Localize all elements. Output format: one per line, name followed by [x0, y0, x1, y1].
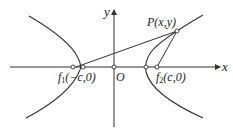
- focus-left-label: f1(−c,0): [58, 70, 96, 85]
- focus-left-marker: [71, 65, 75, 69]
- hyperbola-diagram: y x O P(x,y) f1(−c,0) f2(c,0): [0, 0, 233, 139]
- origin-label: O: [116, 70, 125, 84]
- segment-f1-P: [76, 31, 177, 67]
- point-P-label: P(x,y): [146, 15, 176, 29]
- segment-f2-P: [157, 31, 177, 67]
- origin-marker: [112, 65, 116, 69]
- left-vertex-marker: [81, 65, 85, 69]
- x-axis-label: x: [221, 59, 228, 74]
- y-axis-label: y: [102, 4, 110, 19]
- focus-right-marker: [155, 65, 159, 69]
- point-P-marker: [175, 29, 179, 33]
- focus-right-label: f2(c,0): [156, 70, 186, 85]
- right-vertex-marker: [144, 65, 148, 69]
- diagram-canvas: y x O P(x,y) f1(−c,0) f2(c,0): [0, 0, 233, 139]
